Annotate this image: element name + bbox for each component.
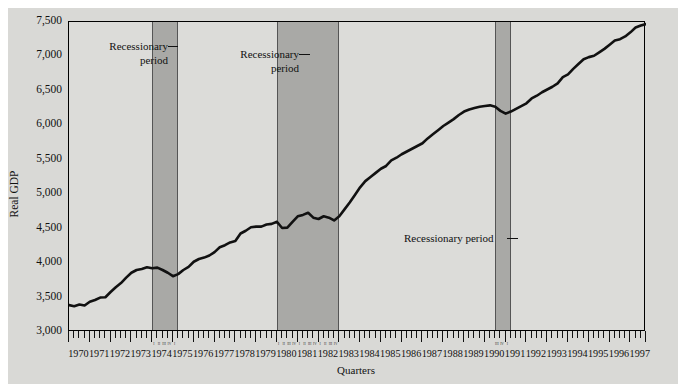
- x-axis-minor-tick: [479, 331, 480, 338]
- x-axis-year-label: 1977: [214, 348, 234, 360]
- x-axis-minor-tick: [146, 331, 147, 338]
- x-axis-year-label: 1979: [255, 348, 275, 360]
- x-axis-major-tick: [338, 331, 339, 342]
- x-axis-minor-tick: [510, 331, 511, 338]
- annotation-line-2: period: [215, 62, 299, 76]
- x-axis-minor-tick: [307, 331, 308, 338]
- x-axis-major-tick: [567, 331, 568, 342]
- x-axis-minor-tick: [562, 331, 563, 338]
- x-axis-minor-tick: [333, 331, 334, 338]
- x-axis-minor-tick: [364, 331, 365, 338]
- x-axis-minor-tick: [104, 331, 105, 338]
- x-axis-major-tick: [484, 331, 485, 342]
- x-axis-minor-tick: [208, 331, 209, 338]
- x-axis-year-label: 1983: [339, 348, 359, 360]
- y-axis-tick-label: 3,500: [36, 291, 62, 303]
- annotation-recession-3: Recessionary period: [404, 232, 494, 246]
- annotation-recession-1: Recessionary period: [84, 40, 168, 67]
- x-axis-major-tick: [172, 331, 173, 342]
- x-axis-minor-tick: [354, 331, 355, 338]
- x-axis-year-label: 1990: [484, 348, 504, 360]
- x-axis-minor-tick: [115, 331, 116, 338]
- x-axis-minor-tick: [136, 331, 137, 338]
- quarter-mark: IV: [500, 342, 504, 346]
- x-axis-year-label: 1995: [588, 348, 608, 360]
- x-axis-year-label: 1982: [318, 348, 338, 360]
- x-axis-minor-tick: [167, 331, 168, 338]
- x-axis-minor-tick: [489, 331, 490, 338]
- x-axis-minor-tick: [390, 331, 391, 338]
- x-axis-major-tick: [297, 331, 298, 342]
- x-axis-minor-tick: [499, 331, 500, 338]
- x-axis-minor-tick: [531, 331, 532, 338]
- y-axis-tick-label: 5,500: [36, 153, 62, 165]
- annotation-line-1: Recessionary: [84, 40, 168, 54]
- x-axis-year-label: 1975: [172, 348, 192, 360]
- annotation-line-1: Recessionary period: [404, 232, 494, 246]
- x-axis-minor-tick: [188, 331, 189, 338]
- x-axis-major-tick: [234, 331, 235, 342]
- x-axis-minor-tick: [427, 331, 428, 338]
- y-axis-tick-label: 6,500: [36, 84, 62, 96]
- x-axis-minor-tick: [260, 331, 261, 338]
- x-axis-minor-tick: [323, 331, 324, 338]
- x-axis-year-label: 1989: [463, 348, 483, 360]
- quarter-mark: I: [507, 342, 508, 346]
- x-axis-minor-tick: [583, 331, 584, 338]
- x-axis-minor-tick: [520, 331, 521, 338]
- x-axis-minor-tick: [395, 331, 396, 338]
- x-axis-major-tick: [588, 331, 589, 342]
- x-axis-year-label: 1996: [609, 348, 629, 360]
- x-axis-minor-tick: [619, 331, 620, 338]
- x-axis-year-label: 1986: [401, 348, 421, 360]
- y-axis-tick-label: 4,500: [36, 222, 62, 234]
- x-axis-year-label: 1974: [151, 348, 171, 360]
- x-axis-year-label: 1987: [422, 348, 442, 360]
- x-axis-year-labels: 1970197119721973197419751976197719781979…: [68, 348, 645, 362]
- x-axis-minor-tick: [536, 331, 537, 338]
- x-axis-major-tick: [609, 331, 610, 342]
- gdp-line-series: [69, 22, 646, 332]
- annotation-line-1: Recessionary: [215, 48, 299, 62]
- x-axis-major-tick: [130, 331, 131, 342]
- x-axis-major-tick: [68, 331, 69, 342]
- x-axis-major-tick: [525, 331, 526, 342]
- x-axis-minor-tick: [541, 331, 542, 338]
- x-axis-year-label: 1985: [380, 348, 400, 360]
- x-axis-minor-tick: [250, 331, 251, 338]
- annotation-leader-2: [299, 54, 310, 55]
- y-axis-tick-label: 6,000: [36, 119, 62, 131]
- annotation-leader-3: [507, 238, 518, 239]
- x-axis-minor-tick: [614, 331, 615, 338]
- x-axis-minor-tick: [349, 331, 350, 338]
- x-axis-minor-tick: [593, 331, 594, 338]
- x-axis-year-label: 1994: [567, 348, 587, 360]
- x-axis-minor-tick: [624, 331, 625, 338]
- x-axis-minor-tick: [240, 331, 241, 338]
- x-axis-minor-tick: [572, 331, 573, 338]
- x-axis-minor-tick: [557, 331, 558, 338]
- x-axis-year-label: 1971: [89, 348, 109, 360]
- y-axis-title: Real GDP: [8, 171, 20, 218]
- x-axis-minor-tick: [78, 331, 79, 338]
- x-axis-minor-tick: [245, 331, 246, 338]
- x-axis-minor-tick: [603, 331, 604, 338]
- x-axis-minor-tick: [84, 331, 85, 338]
- x-axis-major-tick: [214, 331, 215, 342]
- x-axis-major-tick: [401, 331, 402, 342]
- x-axis-year-label: 1973: [131, 348, 151, 360]
- x-axis-minor-tick: [437, 331, 438, 338]
- x-axis-year-label: 1980: [276, 348, 296, 360]
- annotation-leader-1: [168, 46, 178, 47]
- annotation-line-2: period: [84, 54, 168, 68]
- x-axis-major-tick: [505, 331, 506, 342]
- x-axis-minor-tick: [312, 331, 313, 338]
- x-axis-minor-tick: [385, 331, 386, 338]
- y-axis-tick-label: 5,000: [36, 187, 62, 199]
- x-axis-minor-tick: [577, 331, 578, 338]
- x-axis-minor-tick: [458, 331, 459, 338]
- x-axis-major-tick: [255, 331, 256, 342]
- x-axis-minor-tick: [551, 331, 552, 338]
- x-axis-year-label: 1984: [359, 348, 379, 360]
- x-axis-minor-tick: [219, 331, 220, 338]
